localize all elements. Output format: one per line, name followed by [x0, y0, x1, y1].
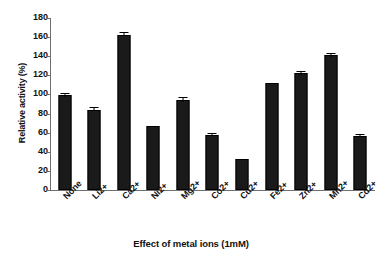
error-bar — [301, 72, 302, 75]
y-axis-tick-label: 180 — [22, 12, 48, 22]
y-axis-tick-label: 140 — [22, 50, 48, 60]
plot-area: 020406080100120140160180 NoneLi2+Ca2+Ni2… — [50, 18, 375, 190]
error-bar-cap-top — [356, 134, 365, 135]
y-axis-tick-label: 20 — [22, 165, 48, 175]
bar-chart-figure: Relative activity (%) 020406080100120140… — [0, 0, 382, 262]
y-axis-tick-mark — [46, 190, 50, 191]
y-axis-tick-label: 120 — [22, 69, 48, 79]
error-bar-cap-top — [119, 32, 128, 33]
error-bar-cap-top — [60, 93, 69, 94]
y-axis-tick-label: 160 — [22, 31, 48, 41]
y-axis-tick-label: 100 — [22, 88, 48, 98]
y-axis-tick-label: 80 — [22, 108, 48, 118]
error-bar-cap-top — [326, 53, 335, 54]
bar-group — [50, 18, 80, 190]
y-axis-tick-label: 60 — [22, 127, 48, 137]
error-bar-cap-top — [90, 107, 99, 108]
error-bar — [182, 98, 183, 102]
error-bar-cap-top — [297, 71, 306, 72]
bar — [58, 95, 71, 190]
x-axis-title: Effect of metal ions (1mM) — [0, 238, 382, 249]
error-bar — [330, 54, 331, 57]
error-bar — [94, 108, 95, 111]
y-axis-tick-label: 40 — [22, 146, 48, 156]
error-bar-cap-top — [208, 133, 217, 134]
error-bar — [123, 33, 124, 36]
error-bar — [64, 94, 65, 97]
error-bar — [212, 134, 213, 136]
error-bar-cap-top — [178, 97, 187, 98]
y-axis-tick-label: 0 — [22, 184, 48, 194]
error-bar — [360, 135, 361, 137]
